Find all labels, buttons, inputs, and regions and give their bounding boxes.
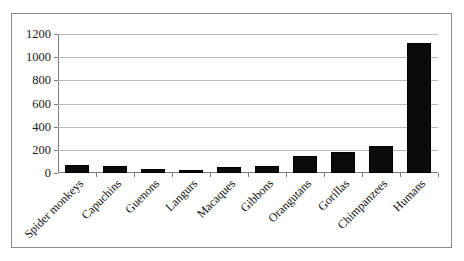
y-tick-mark <box>54 150 58 151</box>
bar <box>103 166 127 173</box>
bar <box>407 43 431 173</box>
y-tick-label: 0 <box>45 167 51 180</box>
bar <box>331 152 355 173</box>
plot-area: 020040060080010001200 <box>58 34 438 173</box>
y-tick-mark <box>54 127 58 128</box>
y-tick-label: 400 <box>32 120 51 133</box>
bar <box>65 165 89 173</box>
y-tick-mark <box>54 80 58 81</box>
x-tick-mark <box>438 173 439 177</box>
x-tick-label: Langurs <box>163 177 199 213</box>
x-tick-label: Gibbons <box>238 177 275 214</box>
y-tick-label: 200 <box>32 144 51 157</box>
gridline <box>58 104 438 105</box>
y-tick-label: 600 <box>32 97 51 110</box>
x-tick-label: Humans <box>391 177 428 214</box>
gridline <box>58 57 438 58</box>
y-tick-mark <box>54 34 58 35</box>
gridline <box>58 80 438 81</box>
y-tick-label: 800 <box>32 74 51 87</box>
gridline <box>58 34 438 35</box>
x-tick-label: Gorillas <box>316 177 352 213</box>
bar <box>293 156 317 173</box>
x-tick-label: Capuchins <box>79 177 123 221</box>
x-axis-labels: Spider monkeysCapuchinsGuenonsLangursMac… <box>58 173 438 243</box>
x-tick-label: Spider monkeys <box>22 177 85 240</box>
y-tick-label: 1200 <box>26 28 51 41</box>
y-tick-mark <box>54 57 58 58</box>
x-tick-label: Guenons <box>123 177 162 216</box>
chart-container: 020040060080010001200 Spider monkeysCapu… <box>11 13 452 248</box>
x-tick-label: Macaques <box>195 177 238 220</box>
bar <box>255 166 279 173</box>
y-tick-label: 1000 <box>26 51 51 64</box>
y-tick-mark <box>54 104 58 105</box>
gridline <box>58 127 438 128</box>
bar <box>369 146 393 173</box>
